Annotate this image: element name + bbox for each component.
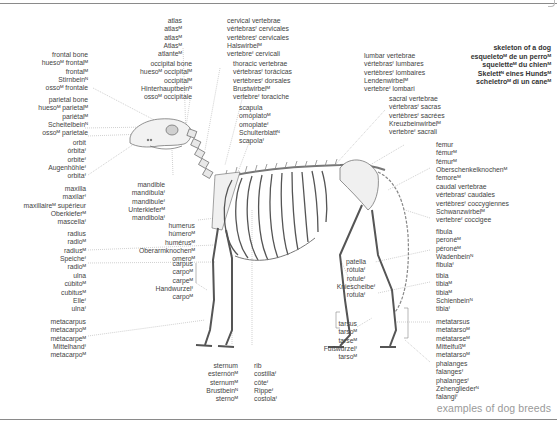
label-metatarsus: metatarsus metatarsoᴹ métatarseᴹ Mittelf… (436, 318, 470, 359)
ribcage (224, 171, 326, 260)
label-rib: rib costillaᶠ côteᶠ Rippeᶠ costolaᶠ (254, 362, 277, 403)
front-legs (196, 228, 234, 347)
title-en: skeleton of a dog (471, 44, 551, 53)
label-tarsus: tarsus tarsoᴹ tarseᴹ Fußwurzelᶠ tarsoᴹ (324, 320, 357, 361)
label-orbit: orbit órbitaᶠ orbiteᶠ Augenhöhleᶠ orbita… (48, 139, 86, 180)
label-occipital-bone: occipital bone huesoᴹ occipitalᴹ occipit… (140, 60, 192, 101)
label-cervical-vertebrae: cervical vertebrae vértebrasᶠ cervicales… (227, 17, 289, 58)
label-lumbar-vertebrae: lumbar vertebrae vértebrasᶠ lumbares ver… (364, 52, 425, 93)
label-ulna: ulna cúbitoᴹ cubitusᴹ Elleᶠ ulnaᶠ (61, 272, 86, 313)
title-it: scheletroᴹ di un caneᴹ (471, 78, 551, 87)
label-femur: femur fémurᴹ fémurᴹ Oberschenkelknochenᴹ… (436, 141, 507, 182)
label-carpus: carpus carpoᴹ carpeᴹ Handwurzelᶠ carpoᴹ (156, 260, 193, 301)
label-fibula: fibula peronéᴹ péronéᴹ Wadenbeinᴺ fibula… (436, 228, 473, 269)
label-metacarpus: metacarpus metacarpoᴹ métacarpeᴹ Mittelh… (50, 318, 86, 359)
label-humerus: humerus húmeroᴹ humérusᴹ Oberarmknochenᴹ… (139, 222, 195, 263)
label-tibia: tibia tibiaᴹ tibiaᴹ Schienbeinᴺ tibiaᶠ (436, 272, 473, 313)
label-phalanges: phalanges falangesᶠ phalangesᶠ Zehenglie… (436, 360, 479, 401)
bottom-rule (0, 419, 557, 420)
title-es: esqueletoᴹ de un perroᴹ (471, 53, 551, 62)
title-fr: squeletteᴹ du chienᴹ (471, 61, 551, 70)
neck-vertebrae (187, 129, 213, 179)
label-scapula: scapula omóplatoᴹ omoplateᶠ Schulterblat… (239, 104, 280, 145)
label-atlas: atlas atlasᴹ atlasᴹ Atlasᴹ atlanteᴹ (158, 17, 182, 58)
label-sternum: sternum esternónᴹ sternumᴹ Brustbeinᴺ st… (206, 362, 238, 403)
label-sacral-vertebrae: sacral vertebrae vértebrasᶠ sacras vertè… (389, 95, 445, 136)
label-maxilla: maxilla maxilarᶠ maxillaireᴹ supérieur O… (24, 185, 86, 226)
label-radius: radius radioᴹ radiusᴹ Speicheᶠ radioᴹ (60, 230, 86, 271)
label-caudal-vertebrae: caudal vertebrae vértebrasᶠ caudales ver… (436, 183, 509, 224)
title-de: Skelettᴺ eines Hundsᴹ (471, 70, 551, 79)
label-patella: patella rótulaᶠ rotuleᶠ Kniescheibeᶠ rot… (320, 258, 392, 299)
label-thoracic-vertebrae: thoracic vertebrae vértebrasᶠ torácicas … (233, 60, 292, 101)
label-parietal-bone: parietal bone huesoᴹ parietalᴹ pariétalᴹ… (38, 96, 88, 137)
examples-of-dog-breeds-link[interactable]: examples of dog breeds (437, 402, 551, 414)
label-mandible: mandible mandíbulaᶠ mandibuleᶠ Unterkief… (128, 181, 165, 222)
label-frontal-bone: frontal bone huesoᴹ frontalᴹ frontalᴹ St… (42, 51, 88, 92)
pelvis (340, 160, 378, 210)
skull (130, 119, 191, 149)
diagram-title: skeleton of a dog esqueletoᴹ de un perro… (471, 44, 551, 87)
